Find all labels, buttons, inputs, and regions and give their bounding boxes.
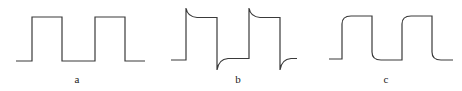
- waveform-figure: a b c: [0, 0, 462, 91]
- label-a: a: [75, 73, 80, 85]
- waveform-c: [329, 16, 453, 60]
- panel-b: b: [171, 8, 297, 85]
- label-b: b: [235, 73, 241, 85]
- panel-c: c: [329, 16, 453, 85]
- panel-a: a: [16, 17, 145, 85]
- label-c: c: [384, 73, 389, 85]
- waveform-a: [16, 17, 145, 61]
- waveform-b: [171, 8, 297, 70]
